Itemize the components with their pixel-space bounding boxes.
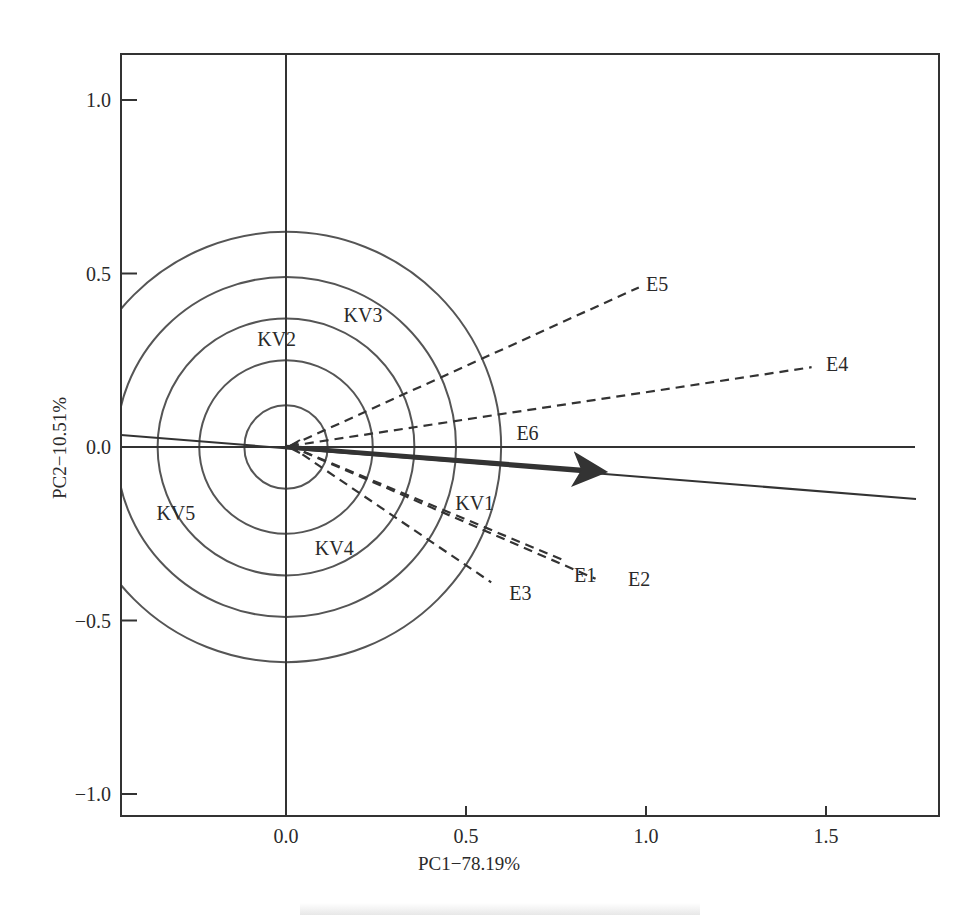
vector-e5	[290, 287, 639, 446]
y-tick-label: −1.0	[75, 783, 111, 805]
env-label-e3: E3	[509, 582, 531, 604]
x-tick-label: 1.0	[634, 825, 659, 847]
env-label-e4: E4	[826, 353, 848, 375]
y-tick-label: 1.0	[86, 89, 111, 111]
point-labels: E1E2E3E4E5E6KV1KV2KV3KV4KV5	[156, 273, 848, 604]
y-tick-label: 0.5	[86, 263, 111, 285]
genotype-label-kv5: KV5	[156, 502, 195, 524]
env-label-e2: E2	[628, 568, 650, 590]
x-tick-label: 1.5	[814, 825, 839, 847]
env-label-e5: E5	[646, 273, 668, 295]
environment-vectors	[286, 287, 812, 582]
genotype-label-kv2: KV2	[257, 328, 296, 350]
y-tick-label: −0.5	[75, 610, 111, 632]
gge-biplot: −1.0−0.50.00.51.00.00.51.01.5 E1E2E3E4E5…	[0, 0, 978, 915]
genotype-label-kv1: KV1	[455, 492, 494, 514]
y-axis-title: PC2−10.51%	[49, 397, 70, 499]
vector-e3	[290, 446, 491, 582]
vector-e4	[290, 367, 812, 446]
y-tick-label: 0.0	[86, 436, 111, 458]
x-axis-title: PC1−78.19%	[418, 853, 520, 874]
genotype-label-kv3: KV3	[344, 304, 383, 326]
genotype-label-kv4: KV4	[315, 537, 354, 559]
vector-e6	[286, 447, 599, 471]
figure-caption-cropped	[300, 903, 700, 915]
x-tick-label: 0.0	[274, 825, 299, 847]
env-label-e1: E1	[574, 564, 596, 586]
axis-ticks: −1.0−0.50.00.51.00.00.51.01.5	[75, 89, 839, 847]
env-label-e6: E6	[516, 422, 538, 444]
x-tick-label: 0.5	[454, 825, 479, 847]
